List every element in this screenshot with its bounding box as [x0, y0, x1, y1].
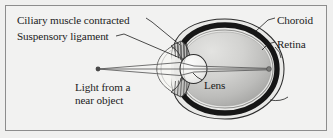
label-lens: Lens — [204, 79, 225, 91]
object-point — [96, 67, 101, 72]
figure-eye-accommodation: Ciliary muscle contracted Suspensory lig… — [0, 0, 333, 138]
label-retina: Retina — [277, 38, 306, 50]
label-light-source: Light from a near object — [75, 81, 130, 107]
leader-ciliary — [146, 18, 180, 45]
label-choroid: Choroid — [277, 14, 313, 26]
image-point — [267, 67, 272, 72]
label-light-line2: near object — [75, 94, 130, 107]
label-ciliary-muscle: Ciliary muscle contracted — [17, 14, 129, 26]
label-light-line1: Light from a — [75, 81, 130, 93]
label-suspensory-ligament: Suspensory ligament — [17, 30, 109, 42]
